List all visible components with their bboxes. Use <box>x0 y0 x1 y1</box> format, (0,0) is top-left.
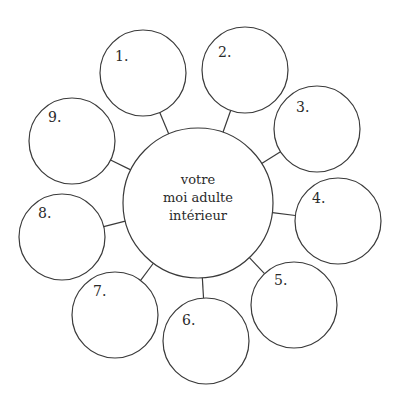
center-label-line-1: votre <box>148 171 248 189</box>
node-label-8: 8. <box>38 205 51 221</box>
node-circle-1 <box>100 30 186 116</box>
connector-line-2 <box>223 111 231 133</box>
node-label-6: 6. <box>182 312 195 328</box>
connector-line-7 <box>141 263 154 280</box>
node-circle-8 <box>19 194 105 280</box>
node-label-9: 9. <box>48 109 61 125</box>
connector-line-5 <box>249 258 264 274</box>
center-label-line-2: moi adulte <box>148 189 248 207</box>
connector-line-6 <box>202 278 203 298</box>
node-label-2: 2. <box>218 44 231 60</box>
node-label-7: 7. <box>93 283 106 299</box>
connector-line-3 <box>262 152 281 164</box>
node-label-1: 1. <box>115 48 128 64</box>
connector-line-4 <box>272 213 295 216</box>
center-label: votre moi adulte intérieur <box>148 171 248 225</box>
node-label-5: 5. <box>274 272 287 288</box>
node-circle-9 <box>29 98 115 184</box>
node-circle-6 <box>163 298 249 384</box>
node-circle-4 <box>295 178 381 264</box>
center-label-line-3: intérieur <box>148 207 248 225</box>
connector-line-8 <box>104 221 126 226</box>
node-label-4: 4. <box>312 190 325 206</box>
node-circle-3 <box>274 86 360 172</box>
node-label-3: 3. <box>296 99 309 115</box>
node-circle-2 <box>202 27 288 113</box>
node-circle-7 <box>72 272 158 358</box>
node-circle-5 <box>251 262 337 348</box>
connector-line-1 <box>160 113 169 134</box>
connector-line-9 <box>111 160 131 170</box>
